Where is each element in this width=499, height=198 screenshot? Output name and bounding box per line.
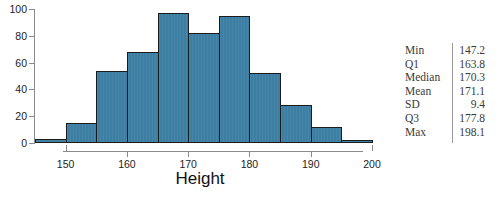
x-axis-tick-label: 190	[291, 159, 331, 170]
stat-label: Max	[405, 126, 451, 140]
histogram-bar	[35, 139, 67, 143]
y-axis-tick-label: 0	[21, 138, 27, 149]
y-axis-tick-label: 80	[15, 31, 27, 42]
histogram-bar	[219, 16, 251, 143]
x-axis-tick-label: 170	[168, 159, 208, 170]
x-axis-tick-label: 160	[107, 159, 147, 170]
stats-row: SD9.4	[405, 98, 485, 112]
y-axis-tick-label: 40	[15, 84, 27, 95]
histogram-bar	[188, 33, 220, 143]
x-axis-tick-label: 150	[46, 159, 86, 170]
stat-label: Mean	[405, 85, 451, 99]
y-axis-tick-label: 100	[9, 4, 27, 15]
stat-value: 170.3	[451, 71, 485, 85]
x-axis-title: Height	[130, 170, 270, 189]
x-axis-tick	[311, 151, 312, 157]
x-axis-tick	[249, 151, 250, 157]
stat-label: Min	[405, 44, 451, 58]
histogram-bar	[341, 140, 373, 143]
stats-row: Q3177.8	[405, 112, 485, 126]
stats-row: Min147.2	[405, 44, 485, 58]
stat-value: 163.8	[451, 58, 485, 72]
x-axis-tick	[372, 145, 373, 151]
stat-value: 171.1	[451, 85, 485, 99]
plot-area	[35, 9, 372, 143]
stats-row: Median170.3	[405, 71, 485, 85]
stat-label: Q1	[405, 58, 451, 72]
stat-value: 147.2	[451, 44, 485, 58]
histogram-figure: 020406080100 150160170180190200 Height	[0, 0, 400, 198]
y-axis-tick-labels: 020406080100	[0, 0, 27, 160]
y-axis-tick-label: 60	[15, 58, 27, 69]
stat-label: Q3	[405, 112, 451, 126]
histogram-bar	[311, 127, 343, 143]
stats-row: Q1163.8	[405, 58, 485, 72]
histogram-bar	[96, 71, 128, 143]
y-axis-tick-label: 20	[15, 111, 27, 122]
summary-statistics-table: Min147.2Q1163.8Median170.3Mean171.1SD9.4…	[405, 44, 485, 139]
screenshot-root: 020406080100 150160170180190200 Height M…	[0, 0, 499, 198]
stats-row: Max198.1	[405, 126, 485, 140]
histogram-bar	[158, 13, 190, 143]
x-axis-tick	[66, 145, 67, 151]
stat-label: SD	[405, 98, 451, 112]
stats-row: Mean171.1	[405, 85, 485, 99]
histogram-bar	[249, 73, 281, 143]
x-axis-line	[63, 151, 363, 152]
x-axis-tick	[188, 151, 189, 157]
x-axis-tick-label: 200	[352, 159, 392, 170]
stats-table-element: Min147.2Q1163.8Median170.3Mean171.1SD9.4…	[405, 44, 485, 139]
stat-value: 198.1	[451, 126, 485, 140]
histogram-bar	[280, 105, 312, 143]
stat-value: 177.8	[451, 112, 485, 126]
stat-label: Median	[405, 71, 451, 85]
histogram-bar	[66, 123, 98, 143]
y-axis-tick	[29, 143, 35, 144]
x-axis-tick	[127, 151, 128, 157]
stat-value: 9.4	[451, 98, 485, 112]
x-axis-tick-label: 180	[229, 159, 269, 170]
histogram-bar	[127, 52, 159, 143]
